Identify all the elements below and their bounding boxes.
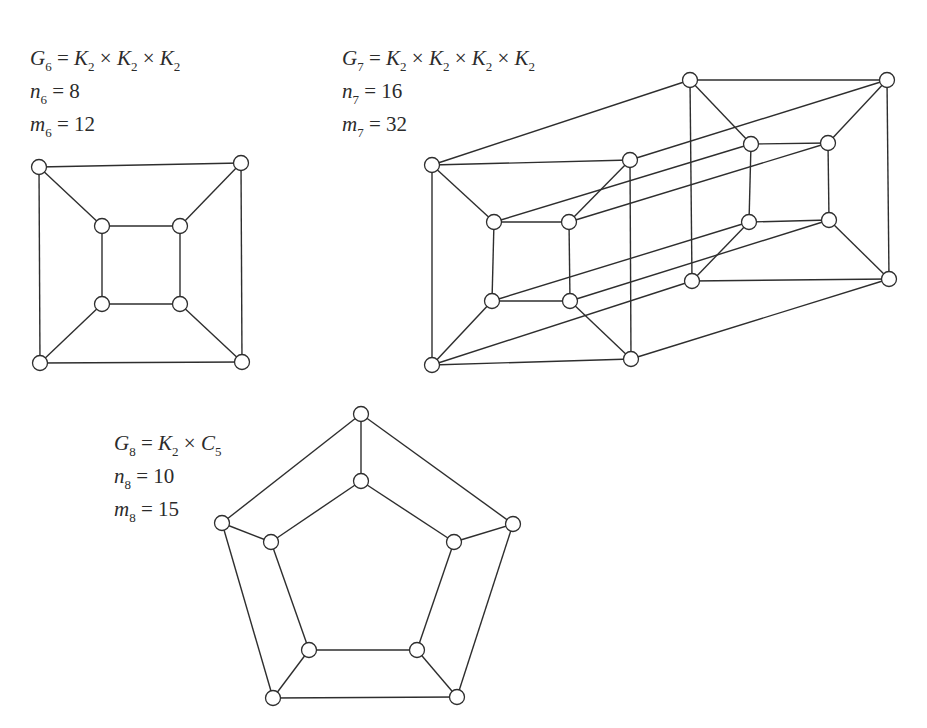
graph-edge bbox=[180, 304, 242, 362]
graph-edge bbox=[273, 650, 309, 698]
graph-edge bbox=[631, 279, 889, 359]
graph-edge bbox=[494, 144, 751, 222]
graph-edge bbox=[271, 481, 361, 542]
graph-vertex bbox=[685, 274, 700, 289]
graph-edge bbox=[569, 222, 570, 301]
graph-edge bbox=[630, 160, 631, 359]
graph-edge bbox=[241, 163, 242, 362]
graph-edge bbox=[454, 524, 513, 542]
graph-edge bbox=[271, 542, 309, 650]
graph-vertex bbox=[354, 407, 369, 422]
graph-vertex bbox=[683, 73, 698, 88]
graph-edge bbox=[829, 220, 889, 279]
graph-vertex bbox=[410, 643, 425, 658]
graph-edge bbox=[749, 144, 751, 222]
graph-vertex bbox=[266, 691, 281, 706]
graph-edge bbox=[690, 80, 692, 281]
graph-vertex bbox=[234, 156, 249, 171]
graph-edge bbox=[570, 301, 631, 359]
graph-vertex bbox=[447, 535, 462, 550]
graph-edge bbox=[432, 165, 494, 222]
graph-edge bbox=[630, 80, 887, 160]
graph-vertex bbox=[173, 297, 188, 312]
graph-edge bbox=[361, 481, 454, 542]
graph-edge bbox=[39, 167, 40, 363]
graph-vertex bbox=[623, 153, 638, 168]
graph-vertex bbox=[302, 643, 317, 658]
graph-vertex bbox=[822, 213, 837, 228]
graph-edge bbox=[417, 542, 454, 650]
graph-edge bbox=[570, 220, 829, 301]
graph-edge bbox=[457, 524, 513, 697]
graph-vertex bbox=[821, 136, 836, 151]
graph-vertex bbox=[95, 297, 110, 312]
graph-g7 bbox=[425, 73, 897, 373]
graph-edge bbox=[417, 650, 457, 697]
graph-vertex bbox=[173, 219, 188, 234]
graph-edge bbox=[361, 414, 513, 524]
graph-vertex bbox=[742, 215, 757, 230]
graph-vertex bbox=[235, 355, 250, 370]
graph-edge bbox=[749, 220, 829, 222]
graph-g6 bbox=[32, 156, 250, 371]
graph-vertex bbox=[562, 215, 577, 230]
graph-edge bbox=[751, 143, 828, 144]
graph-vertex bbox=[33, 356, 48, 371]
graph-vertex bbox=[425, 158, 440, 173]
graph-edge bbox=[432, 160, 630, 165]
graph-edge bbox=[180, 163, 241, 226]
graph-g8 bbox=[215, 407, 521, 706]
graph-edge bbox=[40, 304, 102, 363]
graph-vertex bbox=[264, 535, 279, 550]
graph-vertex bbox=[487, 215, 502, 230]
graph-edge bbox=[222, 414, 361, 523]
graph-vertex bbox=[485, 294, 500, 309]
graph-edge bbox=[273, 697, 457, 698]
graph-vertex bbox=[450, 690, 465, 705]
graph-vertex bbox=[215, 516, 230, 531]
graph-vertex bbox=[506, 517, 521, 532]
graph-edge bbox=[39, 163, 241, 167]
graph-edge bbox=[887, 80, 889, 279]
graph-canvas bbox=[0, 0, 927, 728]
graph-edge bbox=[492, 222, 494, 301]
graph-vertex bbox=[354, 474, 369, 489]
graph-edge bbox=[828, 143, 829, 220]
graph-vertex bbox=[882, 272, 897, 287]
graph-edge bbox=[432, 80, 690, 165]
graph-vertex bbox=[744, 137, 759, 152]
graph-edge bbox=[690, 80, 751, 144]
graph-edge bbox=[39, 167, 102, 226]
graph-vertex bbox=[32, 160, 47, 175]
graph-vertex bbox=[95, 219, 110, 234]
graph-vertex bbox=[563, 294, 578, 309]
graph-edge bbox=[40, 362, 242, 363]
graph-vertex bbox=[880, 73, 895, 88]
graph-edge bbox=[432, 359, 631, 365]
graph-vertex bbox=[624, 352, 639, 367]
graph-edge bbox=[222, 523, 273, 698]
graph-edge bbox=[692, 279, 889, 281]
graph-vertex bbox=[425, 358, 440, 373]
